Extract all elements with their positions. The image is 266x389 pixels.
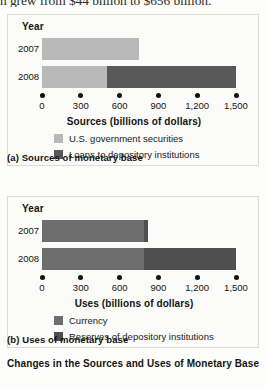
bar-segment [42, 38, 139, 60]
axis-tick-dot [117, 93, 122, 98]
legend-label: Currency [69, 315, 108, 326]
legend-item: Currency [54, 313, 214, 327]
axis-tick-dot [40, 275, 45, 280]
axis-tick-dot [40, 93, 45, 98]
bar-2007-uses [42, 220, 148, 242]
figure-page: n grew from $44 billion to $656 billion.… [0, 0, 266, 389]
axis-tick-label: 900 [150, 100, 166, 111]
bar-segment [42, 248, 144, 270]
legend-swatch-icon [54, 316, 63, 325]
bar-segment [42, 66, 107, 88]
axis-tick-dot [234, 93, 239, 98]
bar-segment [107, 66, 236, 88]
axis-tick-label: 1,200 [185, 100, 209, 111]
axis-tick-label: 0 [39, 282, 44, 293]
axis-tick-dot [78, 275, 83, 280]
caption-sources: (a) Sources of monetary base [7, 152, 143, 163]
running-body-text: n grew from $44 billion to $656 billion. [0, 0, 266, 7]
axis-tick-dot [234, 275, 239, 280]
axis-tick-dot [195, 275, 200, 280]
axis-tick-dot [195, 93, 200, 98]
axis-tick-label: 900 [150, 282, 166, 293]
bar-2008-uses [42, 248, 236, 270]
legend-swatch-icon [54, 134, 63, 143]
bar-2008-sources [42, 66, 236, 88]
axis-tick-label: 600 [112, 100, 128, 111]
axis-tick-label: 600 [112, 282, 128, 293]
axis-tick-dot [156, 275, 161, 280]
bar-segment [42, 220, 144, 242]
plot-area-uses: 03006009001,2001,500 [8, 197, 260, 297]
x-axis-title-sources: Sources (billions of dollars) [8, 116, 260, 127]
axis-tick-dot [78, 93, 83, 98]
bar-segment [144, 220, 148, 242]
legend-label: U.S. government securities [69, 133, 183, 144]
legend-item: U.S. government securities [54, 131, 199, 145]
figure-title: Changes in the Sources and Uses of Monet… [7, 358, 263, 369]
chart-panel-sources: Year 2007 2008 03006009001,2001,500 Sour… [7, 14, 259, 166]
caption-uses: (b) Uses of monetary base [7, 334, 128, 345]
axis-tick-label: 300 [73, 282, 89, 293]
axis-tick-label: 1,500 [224, 282, 248, 293]
bar-segment [144, 248, 236, 270]
plot-area-sources: 03006009001,2001,500 [8, 15, 260, 115]
axis-tick-label: 300 [73, 100, 89, 111]
axis-tick-label: 0 [39, 100, 44, 111]
x-axis-title-uses: Uses (billions of dollars) [8, 298, 260, 309]
chart-panel-uses: Year 2007 2008 03006009001,2001,500 Uses… [7, 196, 259, 348]
bar-2007-sources [42, 38, 139, 60]
axis-tick-label: 1,500 [224, 100, 248, 111]
axis-tick-dot [117, 275, 122, 280]
axis-tick-dot [156, 93, 161, 98]
axis-tick-label: 1,200 [185, 282, 209, 293]
